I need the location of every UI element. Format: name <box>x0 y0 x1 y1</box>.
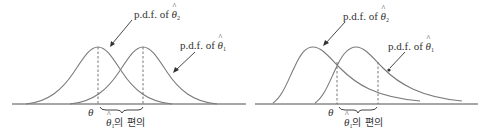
theta-hat-symbol: θ <box>172 9 177 20</box>
right-bias-label: θ1의 편의 <box>344 117 383 129</box>
right-arrow-lower <box>387 52 405 72</box>
diagram-canvas <box>0 0 487 134</box>
left-arrow-upper <box>110 20 132 47</box>
left-arrow-lower <box>173 52 195 73</box>
pdf-prefix-text: p.d.f. of <box>343 10 381 22</box>
theta-hat-symbol: θ <box>218 40 223 51</box>
theta-hat-symbol: θ <box>106 117 111 128</box>
left-lower-pdf-label: p.d.f. of θ1 <box>180 40 226 52</box>
left-upper-pdf-label: p.d.f. of θ2 <box>134 9 180 21</box>
pdf-prefix-text: p.d.f. of <box>134 8 172 20</box>
theta-hat-symbol: θ <box>344 117 349 128</box>
theta-hat-symbol: θ <box>381 11 386 22</box>
left-panel <box>12 20 246 113</box>
right-panel <box>255 22 478 113</box>
pdf-prefix-text: p.d.f. of <box>388 40 426 52</box>
subscript: 2 <box>177 15 180 21</box>
left-theta-label: θ <box>88 107 93 118</box>
subscript: 2 <box>386 17 389 23</box>
right-pdf-theta2-curve <box>273 47 420 103</box>
left-bias-label: θ1의 편의 <box>106 117 145 129</box>
bias-suffix-text: 의 편의 <box>114 117 144 128</box>
subscript: 1 <box>223 46 226 52</box>
theta-hat-symbol: θ <box>426 41 431 52</box>
right-theta-label: θ <box>328 107 333 118</box>
right-arrow-upper <box>323 22 345 46</box>
left-pdf-theta2-curve <box>26 47 172 104</box>
right-upper-pdf-label: p.d.f. of θ2 <box>343 11 389 23</box>
pdf-prefix-text: p.d.f. of <box>180 39 218 51</box>
subscript: 1 <box>431 47 434 53</box>
left-pdf-theta1-curve <box>70 47 217 104</box>
bias-suffix-text: 의 편의 <box>352 117 382 128</box>
right-lower-pdf-label: p.d.f. of θ1 <box>388 41 434 53</box>
